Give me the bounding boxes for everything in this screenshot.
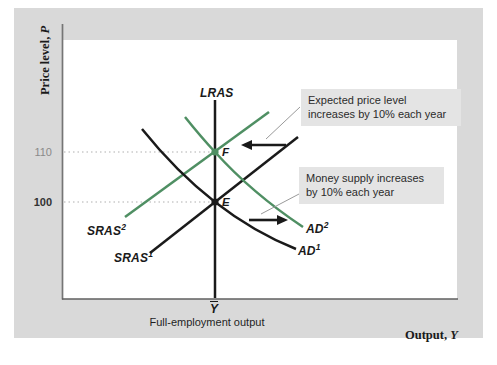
sras-note-pointer-line [266, 107, 300, 139]
sras1-label-base: SRAS [114, 251, 148, 265]
full-employment-caption: Full-employment output [117, 316, 297, 328]
ad2-label-base: AD [306, 222, 324, 236]
ad2-label: AD2 [306, 220, 329, 236]
sras2-label-sup: 2 [121, 222, 126, 232]
sras2-label-base: SRAS [87, 224, 121, 238]
ad1-label-base: AD [298, 244, 316, 258]
sras2-label: SRAS2 [87, 222, 126, 238]
sras-shift-note: Expected price level increases by 10% ea… [301, 89, 461, 126]
sras1-label-sup: 1 [148, 249, 153, 259]
ad2-label-sup: 2 [324, 220, 329, 230]
sras1-label: SRAS1 [114, 249, 153, 265]
ad1-label-sup: 1 [316, 242, 321, 252]
y-axis-title: Price level, P [38, 1, 53, 121]
y-tick-100: 100 [26, 196, 52, 208]
y-tick-110: 110 [28, 146, 52, 158]
point-e-dot [211, 198, 218, 205]
point-e-label: E [222, 196, 230, 208]
sras-shift-note-line1: Expected price level [308, 93, 454, 107]
x-tick-ybar: Y [210, 302, 218, 316]
ad-shift-right-arrow [249, 215, 288, 225]
x-axis-title: Output, Y [405, 328, 458, 343]
ad1-label: AD1 [298, 242, 321, 258]
lras-label: LRAS [200, 86, 233, 100]
ad-shift-note: Money supply increases by 10% each year [299, 167, 444, 204]
x-axis-title-var: Y [450, 328, 458, 342]
ad-shift-note-line2: by 10% each year [306, 185, 437, 199]
ad-shift-note-line1: Money supply increases [306, 171, 437, 185]
sras-shift-note-line2: increases by 10% each year [308, 107, 454, 121]
point-f-label: F [222, 146, 229, 158]
sras2-curve [125, 112, 269, 217]
figure-canvas: Price level, P Output, Y 110 100 LRAS SR… [0, 0, 497, 365]
sras-shift-left-arrow [241, 140, 286, 150]
point-f-dot [211, 148, 218, 155]
y-axis-title-text: Price level, [38, 37, 52, 95]
y-axis-title-var: P [38, 26, 52, 34]
x-axis-title-text: Output, [405, 328, 447, 342]
